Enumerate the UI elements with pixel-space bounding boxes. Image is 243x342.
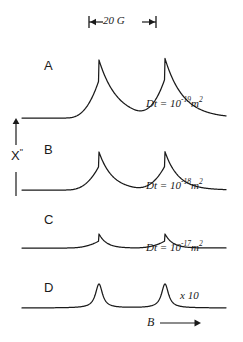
trace-label-a: A	[44, 59, 53, 72]
y-axis-label: X"	[11, 148, 23, 162]
trace-label-d: D	[44, 281, 53, 294]
y-axis-arrowhead	[13, 118, 20, 124]
annotation-trace-c: Dt = 10-17m2	[146, 240, 203, 253]
trace-label-b: B	[44, 143, 53, 156]
x-axis-indicator	[160, 320, 201, 327]
annotation-trace-b: Dt = 10-18m2	[146, 178, 203, 191]
annotation-trace-a: Dt = 10-19m2	[146, 96, 203, 109]
scale-bar-right-arrowhead	[149, 19, 155, 25]
scale-bar-label: 20 G	[103, 15, 125, 26]
trace-label-c: C	[44, 213, 53, 226]
scale-bar-left-arrowhead	[90, 19, 96, 25]
esr-spectra-figure	[0, 0, 243, 342]
gain-note: x 10	[180, 290, 199, 301]
x-axis-arrowhead	[195, 320, 202, 327]
x-axis-label: B	[147, 316, 154, 328]
